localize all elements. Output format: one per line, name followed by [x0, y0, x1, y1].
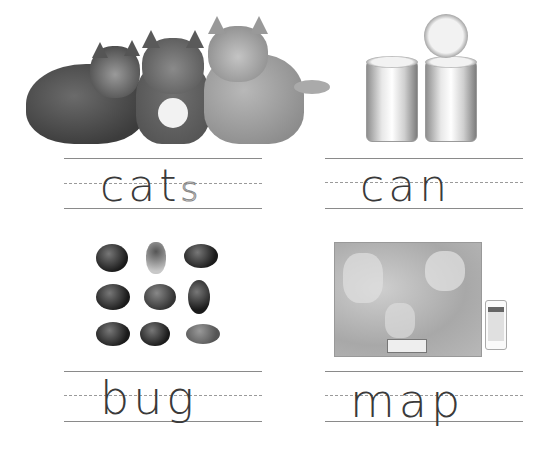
word-bug: bug	[100, 375, 198, 421]
cats-photo-icon	[24, 14, 329, 154]
word-can: can	[360, 164, 451, 208]
word-map: map	[350, 378, 464, 424]
word-solid: cat	[100, 160, 180, 211]
phone-map-icon	[485, 300, 507, 350]
word-cats: cats	[100, 164, 202, 208]
top-line	[325, 371, 523, 372]
top-line	[325, 158, 523, 159]
insects-icon	[88, 240, 228, 360]
word-traced-letter: s	[180, 169, 202, 209]
tin-can-icon	[366, 14, 516, 144]
top-line	[64, 158, 262, 159]
world-map-icon	[334, 242, 482, 357]
